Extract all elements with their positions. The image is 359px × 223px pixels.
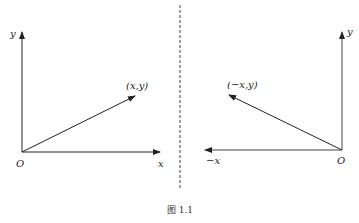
left-origin-label: O <box>16 158 24 169</box>
figure-caption: 图 1.1 <box>167 205 193 215</box>
left-vector-arrow <box>22 96 135 152</box>
left-y-axis-label: y <box>9 28 16 39</box>
left-coordinate-system: y O x (x,y) <box>9 28 164 169</box>
right-y-axis-label: y <box>346 26 353 37</box>
right-coordinate-system: y O −x (−x,y) <box>205 26 353 166</box>
right-origin-label: O <box>337 155 345 166</box>
figure-canvas: y O x (x,y) y O −x (−x,y) 图 1.1 <box>0 0 359 223</box>
right-vector-label: (−x,y) <box>227 79 258 90</box>
right-x-axis-label: −x <box>206 155 220 166</box>
left-x-axis-label: x <box>158 158 164 169</box>
left-vector-label: (x,y) <box>126 80 148 91</box>
right-vector-arrow <box>229 95 342 150</box>
